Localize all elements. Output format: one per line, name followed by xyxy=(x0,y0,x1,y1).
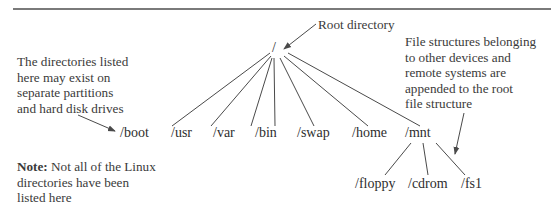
annotation-line: here may exist on xyxy=(17,70,128,86)
annotation-line: File structures belonging xyxy=(405,34,536,50)
node-cdrom: /cdrom xyxy=(408,176,448,192)
node-swap: /swap xyxy=(297,125,330,141)
annotation-line: and hard disk drives xyxy=(17,101,128,117)
node-root: / xyxy=(272,40,276,56)
annotation-line: separate partitions xyxy=(17,85,128,101)
annotation-file-structures: File structures belonging to other devic… xyxy=(405,34,536,112)
node-usr: /usr xyxy=(171,125,192,141)
node-boot: /boot xyxy=(120,125,149,141)
node-var: /var xyxy=(213,125,235,141)
note-line: directories have been xyxy=(17,175,156,191)
annotation-line: file structure xyxy=(405,96,536,112)
note-line: Not all of the Linux xyxy=(48,159,156,174)
node-mnt: /mnt xyxy=(405,125,431,141)
annotation-line: remote systems are xyxy=(405,65,536,81)
node-bin: /bin xyxy=(255,125,277,141)
annotation-line: appended to the root xyxy=(405,81,536,97)
note: Note: Not all of the Linux directories h… xyxy=(17,159,156,206)
node-floppy: /floppy xyxy=(355,176,395,192)
label-root-directory: Root directory xyxy=(318,17,395,33)
node-fs1: /fs1 xyxy=(461,176,482,192)
note-line: listed here xyxy=(17,190,156,206)
note-label: Note: xyxy=(17,159,48,174)
annotation-line: to other devices and xyxy=(405,50,536,66)
node-home: /home xyxy=(352,125,387,141)
annotation-partitions: The directories listed here may exist on… xyxy=(17,54,128,116)
annotation-line: The directories listed xyxy=(17,54,128,70)
